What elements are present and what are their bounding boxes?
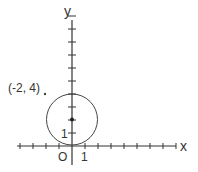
x-axis-label: x: [180, 138, 187, 154]
point-marker: [44, 93, 46, 95]
x-unit-label: 1: [81, 150, 88, 164]
coordinate-diagram: (-2, 4) y x O 1 1: [0, 0, 198, 172]
point-label: (-2, 4): [8, 81, 40, 95]
origin-label: O: [58, 150, 67, 164]
circle-center-point: [70, 118, 74, 122]
y-unit-label: 1: [61, 127, 68, 141]
y-axis-label: y: [64, 3, 71, 19]
axis-ticks: [20, 16, 176, 149]
